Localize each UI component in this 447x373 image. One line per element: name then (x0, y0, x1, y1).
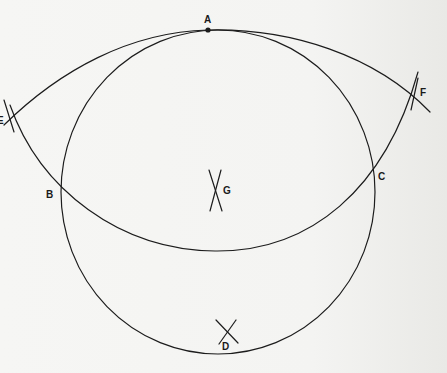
label-e: E (0, 116, 4, 126)
label-g: G (223, 186, 231, 196)
diagram-canvas: A B C D E F G (0, 0, 447, 373)
point-a-dot (205, 27, 210, 32)
label-b: B (46, 190, 53, 200)
main-circle (61, 30, 375, 354)
e-cross-mark (4, 100, 14, 132)
label-a: A (204, 15, 211, 25)
label-f: F (420, 88, 426, 98)
label-c: C (378, 172, 385, 182)
label-d: D (222, 342, 229, 352)
lower-arc (10, 72, 418, 251)
upper-arc (4, 30, 430, 125)
g-cross-mark (209, 170, 222, 211)
